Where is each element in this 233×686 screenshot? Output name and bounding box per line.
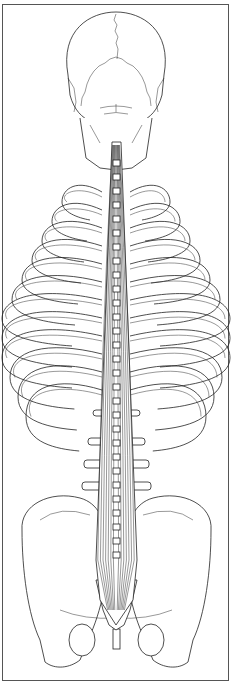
- anatomy-illustration: [0, 0, 233, 686]
- skull: [67, 12, 166, 122]
